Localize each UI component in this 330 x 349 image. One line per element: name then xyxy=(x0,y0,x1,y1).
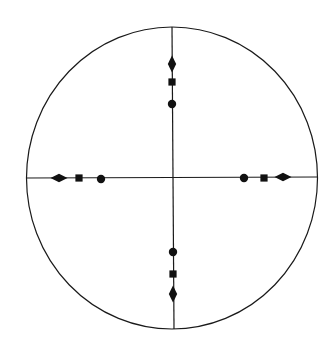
stereographic-diagram xyxy=(0,0,330,349)
circle-pole-marker xyxy=(169,248,177,256)
square-pole-marker xyxy=(169,270,176,277)
diamond-pole-marker xyxy=(169,286,177,303)
circle-pole-marker xyxy=(168,100,176,108)
pole-markers xyxy=(51,56,292,303)
diagram-canvas xyxy=(0,0,330,349)
square-pole-marker xyxy=(75,174,82,181)
square-pole-marker xyxy=(168,78,175,85)
circle-pole-marker xyxy=(240,174,248,182)
diamond-pole-marker xyxy=(275,173,292,181)
diamond-pole-marker xyxy=(168,56,176,73)
circle-pole-marker xyxy=(97,175,105,183)
horizontal-axis-line xyxy=(26,177,317,178)
diamond-pole-marker xyxy=(51,174,68,182)
square-pole-marker xyxy=(260,174,267,181)
